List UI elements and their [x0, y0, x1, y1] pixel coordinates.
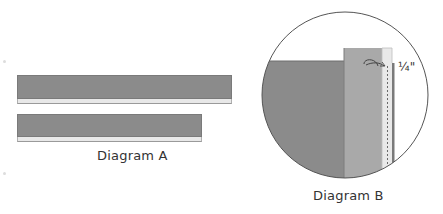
diagram-b-caption: Diagram B — [313, 188, 384, 203]
dark-fabric-block — [255, 61, 347, 191]
seam-allowance-label: ¼" — [398, 60, 416, 74]
folded-edge — [392, 63, 395, 188]
diagram-b-circle-illustration — [0, 0, 443, 214]
medium-fabric-strip — [344, 48, 382, 188]
